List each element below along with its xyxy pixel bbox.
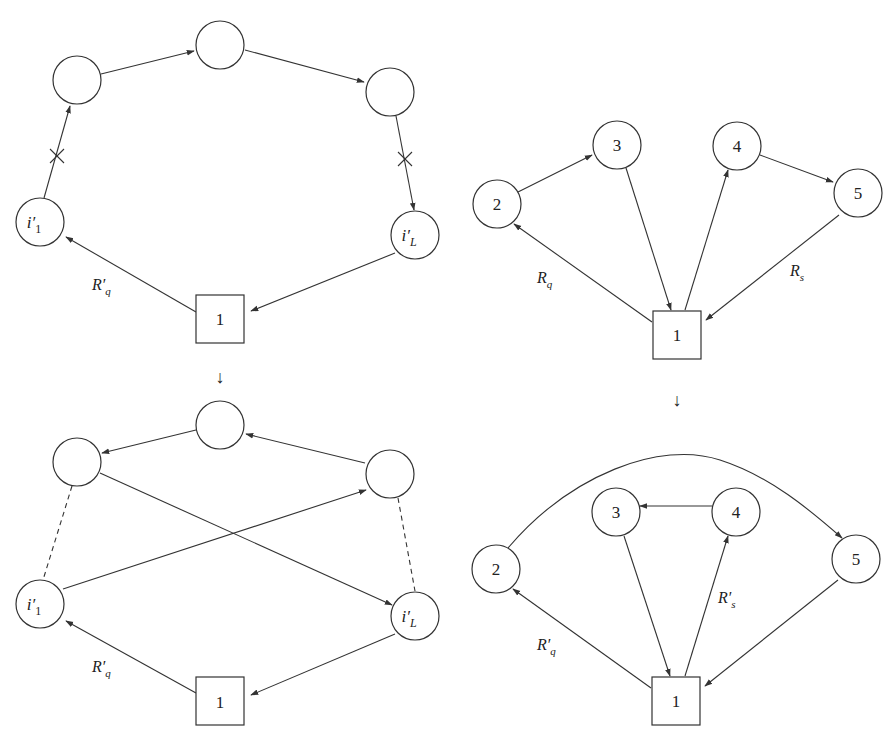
edge-iL-to-depot: [251, 253, 395, 311]
edge-2-to-5-curved: [508, 454, 842, 548]
depot-label: 1: [216, 693, 225, 712]
depot-label: 1: [216, 310, 225, 329]
transition-arrow-icon: ↓: [216, 367, 225, 387]
edge-depot-to-i1: [66, 237, 196, 312]
panel-bottom-right: 1 2 3 4 5 R′q R′s: [472, 454, 880, 725]
node-5-label: 5: [852, 550, 861, 569]
node-2-label: 2: [493, 195, 502, 214]
edge-label-Rs-prime: R′s: [717, 589, 736, 610]
edge-i1-to-a: [44, 106, 70, 198]
node-a: [53, 56, 101, 104]
edge-1-to-2: [513, 589, 651, 688]
edge-1-to-4: [685, 536, 728, 676]
panel-top-right: 1 2 3 4 5 Rq Rs: [473, 121, 882, 359]
node-c: [366, 450, 414, 498]
node-4-label: 4: [733, 137, 742, 156]
edge-3-to-1: [626, 168, 671, 310]
edge-5-to-1: [706, 215, 839, 320]
edge-label-Rs: Rs: [789, 262, 804, 283]
edge-removed-c-iL: [398, 498, 415, 591]
edge-i1-to-c: [63, 490, 366, 589]
edge-b-to-a: [102, 430, 196, 453]
edge-1-to-2: [514, 224, 652, 322]
edge-4-to-5: [760, 155, 833, 182]
node-1-label: 1: [673, 326, 682, 345]
edge-removed-a-i1: [43, 486, 72, 580]
edge-2-to-3: [518, 155, 592, 192]
edge-label-Rq-prime: R′q: [91, 658, 111, 679]
node-b: [196, 401, 244, 449]
edge-iL-to-depot: [251, 634, 395, 695]
edge-depot-to-i1: [66, 621, 196, 693]
node-4-label: 4: [732, 503, 741, 522]
edge-c-to-b: [246, 434, 365, 463]
node-5-label: 5: [854, 184, 863, 203]
edge-label-Rq-prime: R′q: [91, 276, 111, 297]
node-b: [196, 21, 244, 69]
edge-b-to-c: [245, 50, 364, 82]
edge-label-Rq-prime: R′q: [536, 636, 556, 657]
edge-1-to-4: [685, 170, 728, 310]
node-2-label: 2: [492, 560, 501, 579]
node-3-label: 3: [613, 136, 622, 155]
transition-arrow-icon: ↓: [673, 390, 682, 410]
edge-3-to-1: [624, 536, 670, 676]
node-a: [53, 438, 101, 486]
panel-top-left: 1 i′1 i′L R′q: [16, 21, 439, 343]
node-3-label: 3: [612, 503, 621, 522]
edge-a-to-iL: [100, 473, 392, 605]
node-c: [366, 68, 414, 116]
edge-label-Rq: Rq: [536, 269, 553, 290]
edge-a-to-b: [101, 51, 194, 74]
node-1-label: 1: [672, 692, 681, 711]
route-exchange-diagram: 1 i′1 i′L R′q ↓ 1 i′1 i′L R′q: [0, 0, 893, 749]
edge-c-to-iL: [396, 116, 414, 210]
panel-bottom-left: 1 i′1 i′L R′q: [16, 401, 439, 725]
